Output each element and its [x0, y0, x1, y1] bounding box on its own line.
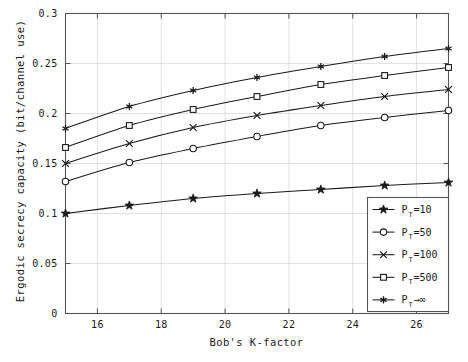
marker-circle	[62, 178, 68, 184]
legend-label: P	[402, 294, 408, 305]
marker-star	[189, 194, 198, 202]
legend-label-value: =50	[414, 227, 432, 238]
marker-square	[382, 73, 388, 79]
marker-circle	[126, 159, 132, 165]
x-tick-label: 20	[219, 319, 232, 330]
marker-circle	[381, 114, 387, 120]
x-tick-label: 18	[155, 319, 168, 330]
marker-square	[63, 145, 69, 151]
chart-figure: Ergodic secrecy capacity (bit/channel us…	[0, 0, 468, 362]
legend: PT=10PT=50PT=100PT=500PT→∞	[368, 198, 449, 312]
marker-square	[381, 274, 387, 280]
marker-square	[254, 94, 260, 100]
legend-label: P	[402, 204, 408, 215]
legend-label: P	[402, 227, 408, 238]
marker-square	[446, 65, 452, 71]
x-tick-label: 22	[283, 319, 296, 330]
marker-star	[316, 185, 325, 193]
series-P_T->inf	[62, 45, 451, 132]
legend-label-value: =10	[414, 204, 432, 215]
marker-asterisk	[126, 103, 132, 110]
legend-label-value: =500	[414, 272, 438, 283]
y-tick-label: 0	[51, 308, 57, 319]
marker-circle	[445, 107, 451, 113]
legend-label: P	[402, 272, 408, 283]
plot-area: 16182022242600.050.10.150.20.250.3PT=10P…	[0, 0, 468, 362]
marker-circle	[380, 229, 386, 235]
marker-x	[126, 140, 133, 147]
y-tick-label: 0.2	[39, 108, 58, 119]
marker-circle	[190, 145, 196, 151]
marker-star	[380, 181, 389, 189]
series-line	[66, 90, 449, 164]
marker-star	[125, 201, 134, 209]
x-tick-label: 24	[346, 319, 359, 330]
legend-label: P	[402, 249, 408, 260]
y-tick-label: 0.15	[32, 158, 57, 169]
marker-circle	[318, 122, 324, 128]
y-tick-label: 0.1	[39, 208, 58, 219]
x-tick-label: 16	[91, 319, 104, 330]
x-tick-label: 26	[410, 319, 423, 330]
y-tick-label: 0.05	[32, 258, 57, 269]
marker-square	[318, 82, 324, 88]
marker-asterisk	[62, 125, 68, 132]
series-line	[66, 111, 449, 182]
y-tick-label: 0.3	[39, 8, 58, 19]
marker-star	[253, 189, 262, 197]
marker-square	[126, 123, 132, 129]
marker-square	[190, 107, 196, 113]
legend-label-value: =100	[414, 249, 438, 260]
y-tick-label: 0.25	[32, 58, 57, 69]
marker-circle	[254, 133, 260, 139]
legend-label-value: →∞	[414, 294, 426, 305]
